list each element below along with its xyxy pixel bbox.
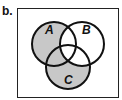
set-label-a: A — [44, 23, 54, 37]
set-label-b: B — [82, 23, 91, 37]
set-label-c: C — [64, 73, 73, 87]
venn-diagram: A B C — [0, 0, 122, 100]
